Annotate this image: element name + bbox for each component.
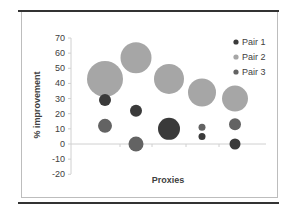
- y-tick-label: -10: [52, 154, 65, 164]
- x-axis-title: Proxies: [152, 175, 185, 185]
- legend-item-pair-1: Pair 1: [233, 37, 265, 47]
- bubble-pair-2: [154, 64, 184, 94]
- y-tick-label: 40: [55, 78, 65, 88]
- bubble-pair-3: [199, 124, 206, 131]
- legend-marker-pair-2: [233, 54, 238, 59]
- y-tick-label: 50: [55, 63, 65, 73]
- y-axis-title: % improvement: [32, 71, 42, 138]
- bubble-pair-2: [121, 42, 152, 73]
- y-tick-label: -20: [52, 169, 65, 179]
- legend: Pair 1 Pair 2 Pair 3: [233, 37, 265, 77]
- bubble-pair-3: [129, 137, 144, 152]
- bubble-series: [87, 42, 248, 151]
- legend-item-pair-3: Pair 3: [233, 67, 265, 77]
- y-tick-label: 10: [55, 124, 65, 134]
- y-tick-label: 60: [55, 48, 65, 58]
- legend-marker-pair-3: [233, 69, 238, 74]
- legend-marker-pair-1: [233, 39, 238, 44]
- legend-item-pair-2: Pair 2: [233, 52, 265, 62]
- bubble-pair-1: [130, 105, 142, 117]
- legend-label-pair-3: Pair 3: [242, 67, 266, 77]
- y-tick-label: 70: [55, 33, 65, 43]
- bubble-pair-2: [87, 61, 123, 97]
- bubble-pair-1: [158, 118, 180, 140]
- bubble-pair-2: [222, 86, 248, 112]
- bubble-pair-1: [99, 94, 111, 106]
- y-tick-label: 30: [55, 94, 65, 104]
- legend-label-pair-2: Pair 2: [242, 52, 266, 62]
- bubble-chart: 706050403020100-10-20 % improvement Prox…: [0, 0, 295, 214]
- y-axis-ticks: 706050403020100-10-20: [52, 33, 71, 179]
- bubble-pair-3: [229, 118, 241, 130]
- legend-label-pair-1: Pair 1: [242, 37, 266, 47]
- y-tick-label: 0: [60, 139, 65, 149]
- bubble-pair-3: [98, 119, 112, 133]
- bubble-pair-2: [188, 79, 216, 107]
- y-tick-label: 20: [55, 109, 65, 119]
- bubble-pair-1: [199, 133, 206, 140]
- bubble-pair-1: [230, 139, 241, 150]
